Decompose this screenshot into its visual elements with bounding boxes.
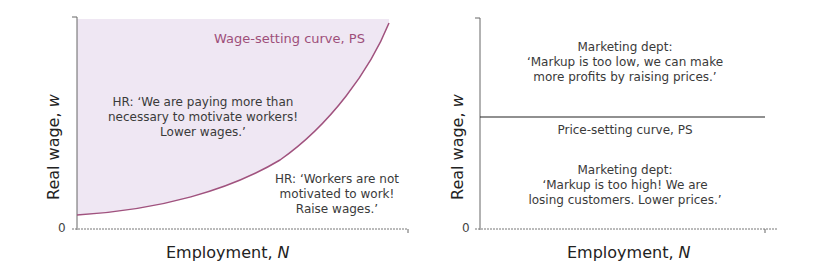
left-origin-label: 0 xyxy=(58,221,66,235)
right-y-axis-label: Real wage, w xyxy=(448,94,467,200)
left-x-axis-label: Employment, N xyxy=(166,243,290,262)
right-origin-label: 0 xyxy=(462,221,470,235)
hr-lower-note: HR: ‘Workers are not motivated to work! … xyxy=(262,172,412,217)
wage-setting-curve-label: Wage-setting curve, PS xyxy=(214,31,365,46)
right-x-axis-label: Employment, N xyxy=(567,243,691,262)
price-setting-curve-label: Price-setting curve, PS xyxy=(515,123,735,138)
marketing-lower-note: Marketing dept: ‘Markup is too high! We … xyxy=(515,163,735,208)
hr-upper-note: HR: ‘We are paying more than necessary t… xyxy=(88,95,318,140)
left-y-axis-label: Real wage, w xyxy=(44,94,63,200)
marketing-upper-note: Marketing dept: ‘Markup is too low, we c… xyxy=(515,40,735,85)
